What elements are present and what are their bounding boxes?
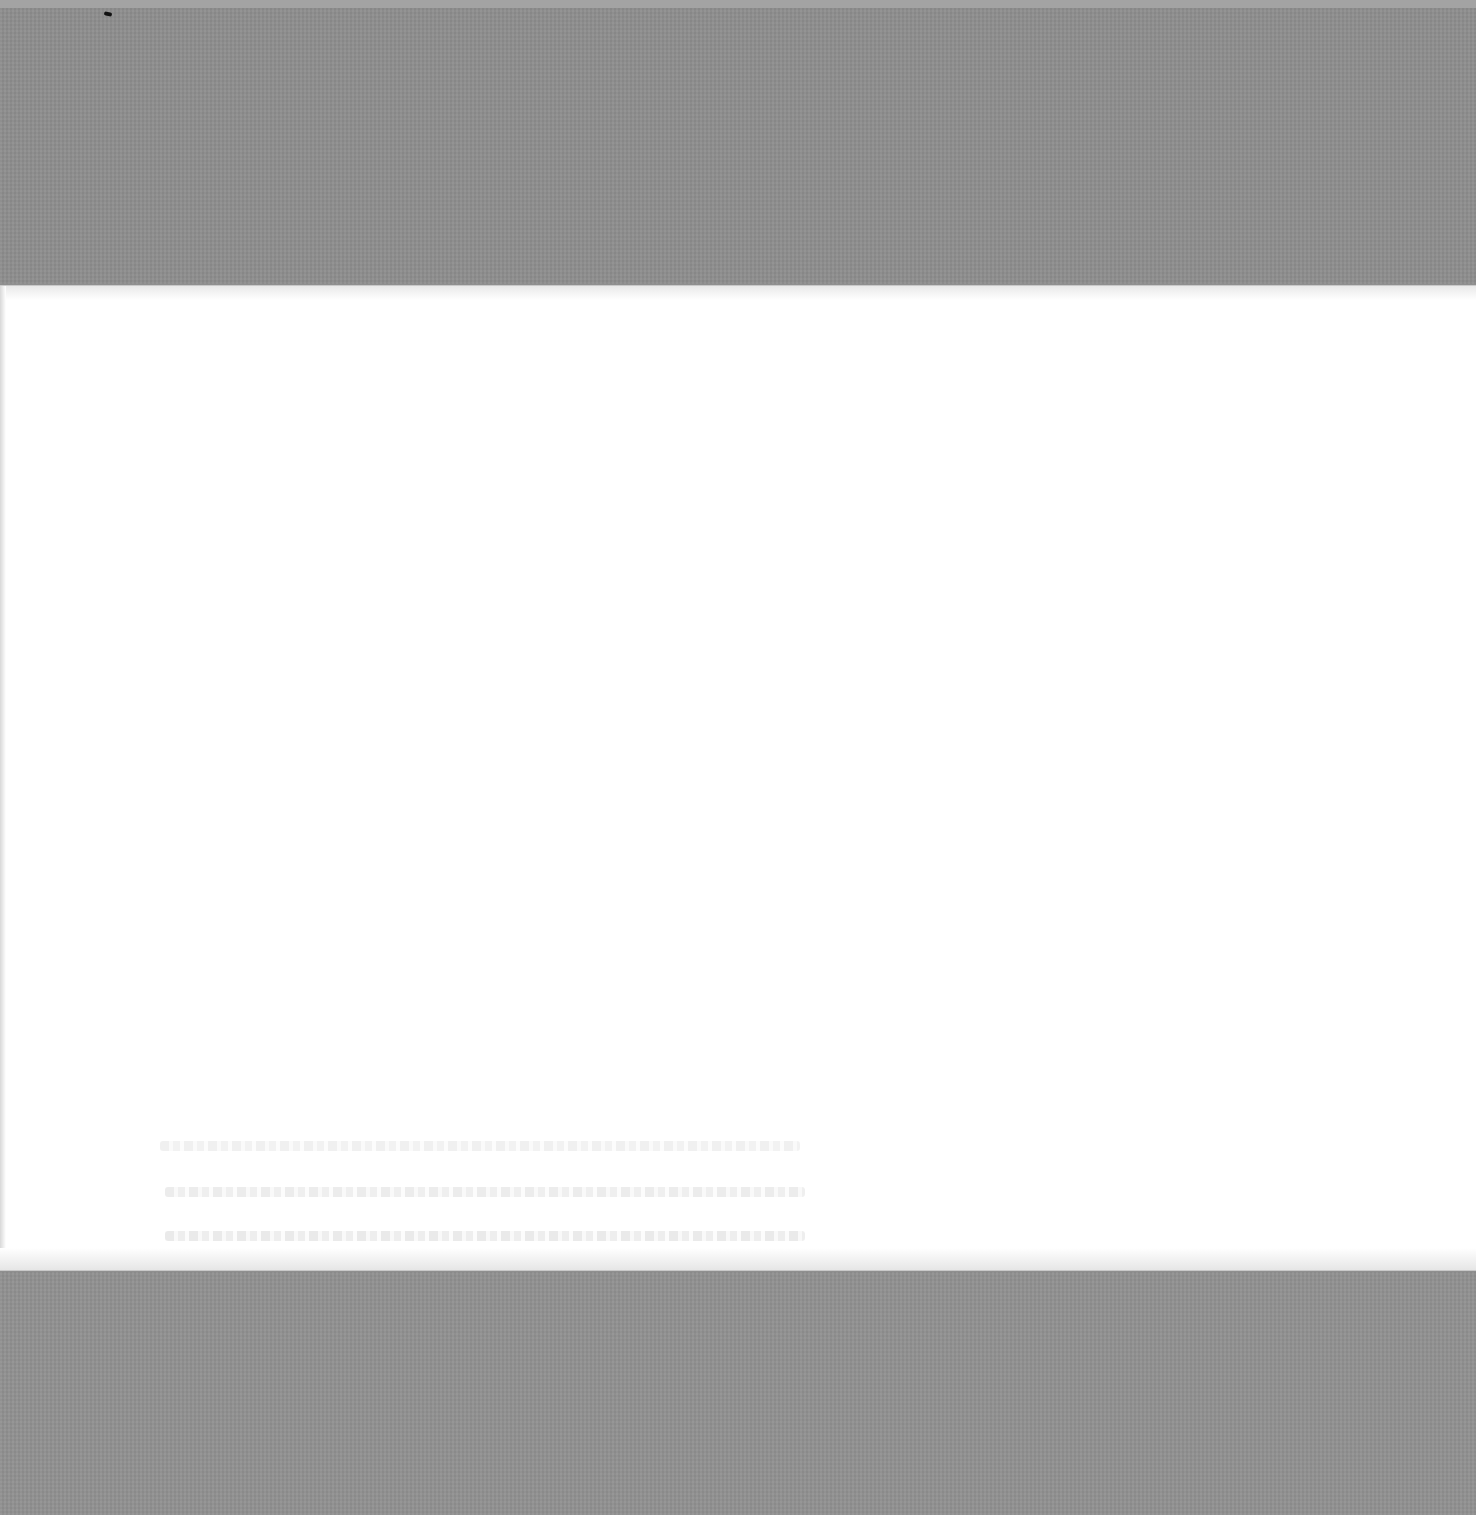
dust-speck (104, 11, 113, 17)
scanner-bed-bottom (0, 1272, 1476, 1515)
scanner-bed-top (0, 0, 1476, 284)
sheet-bottom-edge (0, 1248, 1476, 1270)
paper-sheet (0, 286, 1476, 1270)
sheet-top-edge (0, 286, 1476, 300)
sheet-left-edge (0, 286, 6, 1270)
scanner-top-edge (0, 0, 1476, 8)
bleed-through-line (165, 1187, 805, 1197)
bleed-through-line (160, 1141, 800, 1151)
bleed-through-line (165, 1231, 805, 1241)
